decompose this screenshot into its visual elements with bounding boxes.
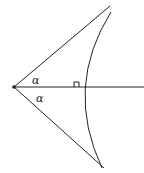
lower-angle-label: α	[36, 92, 44, 105]
right-angle-marker	[74, 82, 79, 87]
lower-ray	[14, 87, 104, 168]
geometry-diagram: α α	[0, 0, 144, 173]
concave-curve	[85, 12, 111, 168]
upper-angle-label: α	[32, 74, 40, 87]
vertex-point	[12, 85, 16, 89]
upper-ray	[14, 6, 110, 87]
